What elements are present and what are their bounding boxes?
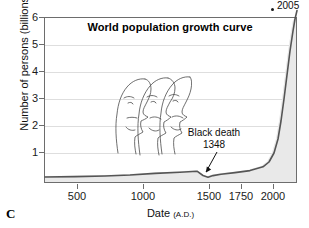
annotation-black-death-line2: 1348: [170, 139, 258, 151]
panel-letter: C: [6, 206, 15, 222]
ytick-label-1: 1: [10, 147, 38, 158]
chart-title: World population growth curve: [60, 21, 280, 33]
xtick-mark-1000: [143, 184, 144, 189]
xtick-mark-2000: [273, 184, 274, 189]
ytick-mark-3: [39, 98, 44, 99]
endpoint-marker-dot: [271, 8, 274, 11]
ytick-mark-1: [39, 152, 44, 153]
x-axis-label-unit: (A.D.): [173, 210, 194, 219]
ytick-mark-4: [39, 71, 44, 72]
ytick-mark-5: [39, 44, 44, 45]
annotation-2005-label: 2005: [277, 1, 299, 11]
xtick-mark-1500: [209, 184, 210, 189]
x-axis-label: Date (A.D.): [44, 207, 297, 219]
x-axis-label-text: Date: [147, 207, 170, 219]
ytick-mark-2: [39, 125, 44, 126]
ytick-mark-6: [39, 17, 44, 18]
annotation-black-death: Black death 1348: [170, 127, 258, 151]
xtick-mark-500: [77, 184, 78, 189]
annotation-black-death-line1: Black death: [170, 127, 258, 139]
figure-panel-c: World population growth curve 6 5 4 3 2 …: [0, 0, 309, 228]
xtick-label-500: 500: [57, 191, 97, 202]
y-axis-label: Number of persons (billions): [18, 0, 30, 142]
xtick-label-1000: 1000: [123, 191, 163, 202]
xtick-label-2000: 2000: [253, 191, 293, 202]
plot-area: [44, 17, 297, 183]
xtick-mark-1750: [241, 184, 242, 189]
